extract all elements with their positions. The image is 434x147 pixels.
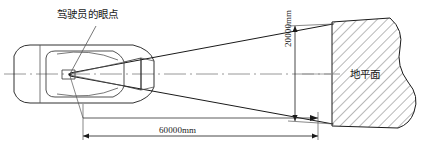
ground-plane-label: 地平面 bbox=[350, 70, 381, 81]
dim-h-arrow-left bbox=[83, 133, 89, 138]
dim-v-arrow-top bbox=[292, 26, 297, 32]
diagram-canvas: 驾驶员的眼点 地平面 60000mm 20000mm bbox=[0, 0, 434, 147]
dim-h-arrow-right bbox=[312, 133, 318, 138]
horizontal-dimension-label: 60000mm bbox=[159, 126, 196, 135]
car-front-lower-chamfer bbox=[141, 87, 154, 90]
eye-point-leader-line bbox=[71, 26, 96, 72]
vertical-dimension-label: 20000mm bbox=[284, 10, 293, 47]
interior-ray-upper bbox=[70, 62, 124, 74]
eye-point-label: 驾驶员的眼点 bbox=[57, 10, 118, 21]
vertical-dimension bbox=[288, 24, 334, 124]
car-roof-lower-sweep bbox=[57, 88, 118, 96]
interior-ray-lower bbox=[70, 75, 124, 86]
car-roof-upper-sweep bbox=[57, 52, 118, 60]
